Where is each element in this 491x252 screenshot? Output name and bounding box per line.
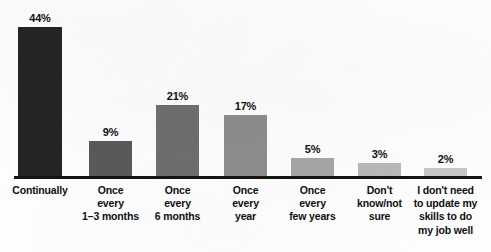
category-label-line: Once	[142, 184, 214, 197]
category-label: Onceeveryfew years	[277, 184, 349, 224]
category-label-line: 1–3 months	[75, 210, 147, 223]
category-label-line: skills to do	[401, 210, 491, 223]
category-label: Onceevery1–3 months	[75, 184, 147, 224]
bar-group: 21%Onceevery6 months	[156, 0, 199, 252]
bar-group: 3%Don'tknow/notsure	[358, 0, 401, 252]
category-label-line: year	[210, 210, 282, 223]
category-label: Continually	[0, 184, 81, 197]
category-label-line: 6 months	[142, 210, 214, 223]
bar-chart: 44%Continually9%Onceevery1–3 months21%On…	[0, 0, 491, 252]
bar-value-label: 21%	[156, 90, 199, 102]
category-label-line: I don't need	[401, 184, 491, 197]
category-label-line: Once	[210, 184, 282, 197]
category-label: Onceevery6 months	[142, 184, 214, 224]
bar-value-label: 3%	[358, 148, 401, 160]
bar-value-label: 44%	[18, 12, 62, 24]
category-label-line: few years	[277, 210, 349, 223]
plot-area: 44%Continually9%Onceevery1–3 months21%On…	[0, 0, 491, 252]
bar-value-label: 2%	[424, 153, 467, 165]
bar-group: 2%I don't needto update myskills to domy…	[424, 0, 467, 252]
bar	[18, 27, 62, 177]
x-axis-baseline	[14, 176, 482, 179]
bar-value-label: 9%	[89, 126, 132, 138]
category-label-line: every	[142, 197, 214, 210]
bar-group: 9%Onceevery1–3 months	[89, 0, 132, 252]
bar-group: 5%Onceeveryfew years	[291, 0, 334, 252]
bar	[358, 163, 401, 177]
category-label-line: Continually	[0, 184, 81, 197]
category-label: Onceeveryyear	[210, 184, 282, 224]
bar	[89, 141, 132, 177]
bar	[224, 115, 267, 177]
category-label-line: every	[277, 197, 349, 210]
bar-value-label: 17%	[224, 100, 267, 112]
category-label-line: to update my	[401, 197, 491, 210]
category-label-line: every	[75, 197, 147, 210]
category-label-line: Once	[75, 184, 147, 197]
bar	[156, 105, 199, 177]
category-label-line: my job well	[401, 224, 491, 237]
category-label: I don't needto update myskills to domy j…	[401, 184, 491, 237]
category-label-line: every	[210, 197, 282, 210]
bar	[291, 158, 334, 177]
bar-group: 44%Continually	[18, 0, 62, 252]
category-label-line: Once	[277, 184, 349, 197]
bar-value-label: 5%	[291, 143, 334, 155]
bar-group: 17%Onceeveryyear	[224, 0, 267, 252]
